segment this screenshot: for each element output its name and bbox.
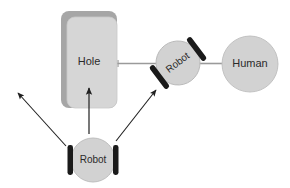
robot-bottom-wheel-left [68,145,74,175]
diagram-canvas: Hole Robot Human Robot [0,0,290,188]
robot-bottom-label: Robot [80,154,107,165]
arrow-upper-left [18,93,66,146]
diagram-svg: Hole Robot Human Robot [0,0,290,188]
connector-hole-to-robot [113,60,162,67]
node-robot-bottom[interactable]: Robot [68,138,119,182]
hole-label: Hole [78,55,101,67]
robot-bottom-wheel-right [113,145,119,175]
human-label: Human [232,57,267,69]
node-human[interactable]: Human [222,36,278,92]
arrow-to-robot-middle [116,90,156,141]
